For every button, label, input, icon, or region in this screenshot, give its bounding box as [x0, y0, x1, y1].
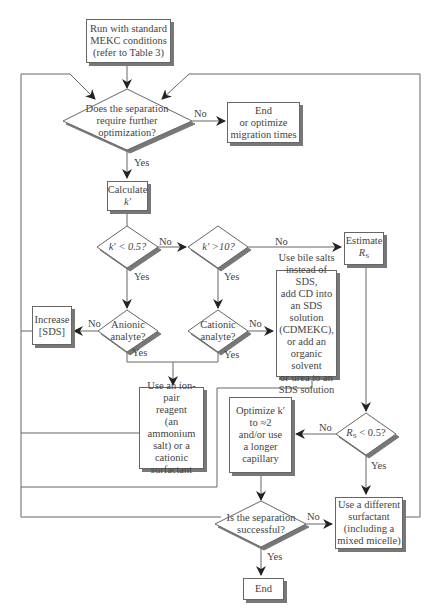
- end-or-optimize-box: End or optimize migration times: [227, 102, 300, 143]
- decision-cationic-text: Cationic analyte?: [188, 318, 248, 344]
- decision-k-low-text: k′ < 0.5?: [97, 240, 158, 254]
- edge-label-k-low-no: No: [159, 236, 172, 248]
- bile-salts-box: Use bile salts instead of SDS, add CD in…: [276, 270, 337, 377]
- edge-label-anionic-no: No: [88, 318, 101, 330]
- estimate-rs-box: Estimate RS: [344, 232, 384, 265]
- decision-success-text: Is the separation successful?: [215, 511, 307, 537]
- edge-label-anionic-yes: Yes: [132, 347, 147, 359]
- decision-anionic-text: Anionic analyte?: [98, 318, 158, 344]
- different-surfactant-box: Use a different surfactant (including a …: [335, 497, 403, 549]
- edge-label-optimize-yes: Yes: [134, 157, 149, 169]
- edge-label-success-no: No: [307, 511, 320, 523]
- edge-label-rs-yes: Yes: [371, 460, 386, 472]
- edge-label-optimize-no: No: [194, 108, 207, 120]
- increase-sds-box: Increase [SDS]: [32, 306, 72, 345]
- mekc-optimization-flowchart: Run with standard MEKC conditions (refer…: [0, 0, 436, 614]
- edge-label-k-high-yes: Yes: [224, 271, 239, 283]
- edge-label-k-high-no: No: [275, 236, 288, 248]
- edge-label-k-low-yes: Yes: [134, 271, 149, 283]
- edge-label-rs-no: No: [319, 422, 332, 434]
- edge-label-success-yes: Yes: [267, 551, 282, 563]
- edge-label-cationic-yes: Yes: [224, 349, 239, 361]
- optimize-k-box: Optimize k′ to ≈2 and/or use a longer ca…: [229, 397, 292, 473]
- end-box: End: [243, 578, 284, 600]
- decision-k-high-text: k′ >10?: [188, 240, 249, 254]
- edge-label-cationic-no: No: [249, 318, 262, 330]
- start-box: Run with standard MEKC conditions (refer…: [86, 19, 171, 63]
- decision-rs-text: RS < 0.5?: [336, 427, 396, 441]
- calculate-k-box: Calculate k′: [107, 181, 148, 211]
- ion-pair-reagent-box: Use an ion-pair reagent (an ammonium sal…: [139, 387, 204, 469]
- decision-further-optimization-text: Does the separation require further opti…: [77, 101, 177, 141]
